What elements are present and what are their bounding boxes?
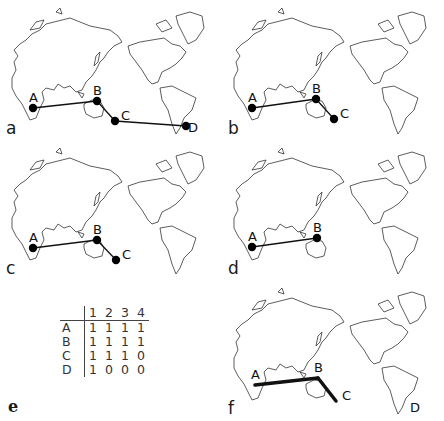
adjacency-table: 1 2 3 4 A 1 1 1 1 B 1 1 1 1 C 1 1 1 0 D [60, 306, 149, 377]
adjacency-table-panel: 1 2 3 4 A 1 1 1 1 B 1 1 1 1 C 1 1 1 0 D [60, 306, 149, 377]
table-cell: 1 [85, 321, 102, 336]
table-cell: 0 [101, 363, 117, 377]
column-header: 1 [85, 306, 102, 321]
column-header: 2 [101, 306, 117, 321]
table-row: D 1 0 0 0 [60, 363, 149, 377]
world-map-b: ABC [222, 0, 444, 140]
panel-b: ABCb [222, 0, 444, 140]
table-row: C 1 1 1 0 [60, 349, 149, 363]
column-header: 3 [117, 306, 133, 321]
node-B [313, 234, 321, 242]
edge-A-B [255, 378, 318, 385]
row-header: D [60, 363, 85, 377]
panel-letter-e: e [8, 397, 18, 416]
node-label-A: A [29, 230, 38, 245]
world-map-c: ABC [0, 140, 222, 280]
panel-letter-f: f [228, 398, 234, 418]
node-A [29, 104, 37, 112]
panel-letter-a: a [6, 118, 16, 138]
table-cell: 1 [117, 349, 133, 363]
table-cell: 1 [101, 321, 117, 336]
node-A [248, 104, 256, 112]
edge-B-C [318, 378, 336, 401]
table-cell: 1 [85, 363, 102, 377]
node-B [312, 95, 320, 103]
table-cell: 0 [133, 349, 149, 363]
node-label-D: D [188, 120, 198, 135]
node-label-C: C [342, 388, 351, 403]
table-header-row: 1 2 3 4 [60, 306, 149, 321]
edge-A-B [252, 238, 317, 247]
row-header: C [60, 349, 85, 363]
node-B [93, 236, 101, 244]
panel-letter-c: c [6, 258, 15, 278]
node-C [112, 256, 120, 264]
node-label-C: C [122, 247, 131, 262]
panel-a: ABCDa [0, 0, 222, 140]
table-cell: 1 [133, 335, 149, 349]
row-header: A [60, 321, 85, 336]
world-map-f: ABCD [222, 280, 444, 420]
table-row: A 1 1 1 1 [60, 321, 149, 336]
table-cell: 1 [101, 335, 117, 349]
panel-letter-b: b [228, 118, 239, 138]
node-label-C: C [121, 108, 130, 123]
table-cell: 1 [117, 321, 133, 336]
panel-d: ABd [222, 140, 444, 280]
node-B [93, 97, 101, 105]
node-label-B: B [93, 83, 102, 98]
node-label-B: B [93, 222, 102, 237]
panel-letter-d: d [228, 258, 239, 278]
continent-outlines [12, 8, 204, 134]
table-cell: 1 [133, 321, 149, 336]
table-cell: 1 [117, 335, 133, 349]
node-label-D: D [410, 400, 420, 415]
node-label-A: A [248, 90, 257, 105]
node-C [111, 117, 119, 125]
node-label-A: A [29, 90, 38, 105]
node-label-A: A [248, 229, 257, 244]
continent-outlines [234, 148, 426, 274]
edge-A-B [33, 240, 97, 248]
table-cell: 0 [117, 363, 133, 377]
world-map-d: AB [222, 140, 444, 280]
table-cell: 1 [85, 349, 102, 363]
node-A [248, 243, 256, 251]
world-map-a: ABCD [0, 0, 222, 140]
table-cell: 0 [133, 363, 149, 377]
table-corner [60, 306, 85, 321]
table-cell: 1 [101, 349, 117, 363]
row-header: B [60, 335, 85, 349]
node-label-B: B [312, 81, 321, 96]
table-row: B 1 1 1 1 [60, 335, 149, 349]
node-C [330, 115, 338, 123]
panel-c: ABCc [0, 140, 222, 280]
panel-f: ABCDf [222, 280, 444, 420]
node-label-C: C [340, 106, 349, 121]
node-label-B: B [314, 360, 323, 375]
node-A [29, 244, 37, 252]
continent-outlines [12, 148, 204, 274]
node-label-A: A [251, 367, 260, 382]
table-cell: 1 [85, 335, 102, 349]
column-header: 4 [133, 306, 149, 321]
node-label-B: B [313, 220, 322, 235]
